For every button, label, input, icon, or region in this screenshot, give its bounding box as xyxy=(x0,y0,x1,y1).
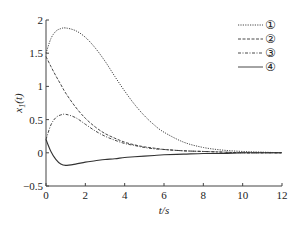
y-tick-label: 1.5 xyxy=(29,47,43,59)
x-tick-label: 0 xyxy=(43,189,49,201)
y-tick-label: 0.5 xyxy=(29,114,43,126)
y-tick-label: −0.5 xyxy=(23,180,43,192)
x-tick-label: 6 xyxy=(161,189,167,201)
series-lines xyxy=(46,28,282,166)
legend-label-1: ① xyxy=(265,18,276,32)
y-tick-label: 2 xyxy=(38,14,44,26)
x-tick-label: 2 xyxy=(83,189,89,201)
line-chart: 024681012−0.500.511.52 ①②③④ t/s x1(t) xyxy=(0,0,299,228)
legend-label-4: ④ xyxy=(265,60,276,74)
y-axis-label-arg: (t) xyxy=(12,93,25,104)
series-line-3 xyxy=(46,114,282,153)
legend-label-3: ③ xyxy=(265,46,276,60)
series-line-2 xyxy=(46,57,282,153)
axes: 024681012−0.500.511.52 xyxy=(23,14,287,201)
x-tick-label: 12 xyxy=(277,189,288,201)
x-tick-label: 8 xyxy=(201,189,207,201)
x-axis-label: t/s xyxy=(159,204,169,216)
y-tick-label: 1 xyxy=(38,80,44,92)
legend: ①②③④ xyxy=(238,18,276,74)
series-line-4 xyxy=(46,140,282,166)
series-line-1 xyxy=(46,28,282,153)
x-tick-label: 4 xyxy=(122,189,128,201)
y-axis-label: x1(t) xyxy=(12,93,27,114)
legend-label-2: ② xyxy=(265,32,276,46)
y-tick-label: 0 xyxy=(38,147,44,159)
x-tick-label: 10 xyxy=(237,189,249,201)
svg-text:x1(t): x1(t) xyxy=(12,93,27,114)
